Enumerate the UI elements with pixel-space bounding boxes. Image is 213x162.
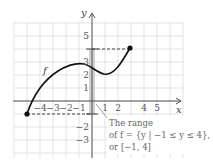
y-tick-label: −3 <box>76 135 90 145</box>
x-tick-label: −1 <box>72 103 85 113</box>
x-axis-label: x <box>176 104 182 115</box>
annotation-line-1: The range <box>109 118 153 128</box>
x-tick-label: −3 <box>46 103 60 113</box>
x-tick-label: 4 <box>141 103 147 113</box>
x-tick-label: 2 <box>115 103 121 113</box>
y-tick-label: 1 <box>83 83 89 93</box>
x-tick-label: 5 <box>154 103 160 113</box>
right-endpoint <box>127 45 132 50</box>
y-tick-label: 5 <box>83 31 89 41</box>
y-tick-label: −2 <box>76 122 89 132</box>
y-axis-label: y <box>80 7 87 18</box>
annotation-line-3: or [−1, 4] <box>109 142 151 152</box>
x-tick-label: −2 <box>59 103 72 113</box>
function-label: f <box>42 65 49 76</box>
x-tick-label: −4 <box>33 103 47 113</box>
y-tick-label: 2 <box>83 70 89 80</box>
x-tick-label: 1 <box>102 103 108 113</box>
range-of-function-diagram: −4−3−2−11245 5321−2−3 x y f The range of… <box>0 0 213 162</box>
annotation-line-2: of f = {y | −1 ≤ y ≤ 4}, <box>109 130 210 141</box>
y-tick-label: 3 <box>83 57 89 67</box>
left-endpoint <box>24 111 29 116</box>
